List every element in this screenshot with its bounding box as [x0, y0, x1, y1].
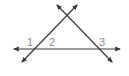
- angle-label-3: 3: [99, 36, 105, 48]
- left-transversal-line: [22, 5, 77, 62]
- angle-label-1: 1: [27, 36, 33, 48]
- geometry-diagram: 1 2 3: [0, 0, 129, 76]
- right-transversal-line: [57, 5, 112, 62]
- angle-label-2: 2: [49, 36, 55, 48]
